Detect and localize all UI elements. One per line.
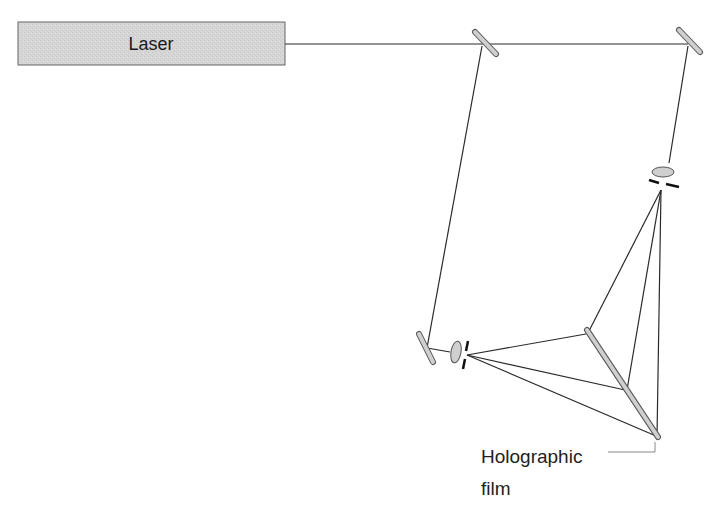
film-label-line2: film (481, 478, 511, 499)
ray (467, 334, 586, 355)
lens-left (449, 340, 463, 363)
lens-top (652, 167, 674, 177)
reference-beam-path (669, 46, 688, 163)
pinhole-top (649, 180, 679, 187)
film-label-line1: Holographic (481, 446, 582, 467)
laser: Laser (18, 22, 285, 65)
film-leader-line (608, 442, 655, 452)
ray (467, 355, 625, 390)
light-beams (285, 44, 688, 437)
ray (657, 190, 661, 437)
mirror-bottom-left (419, 334, 433, 362)
laser-label: Laser (128, 34, 173, 54)
ray (627, 190, 661, 390)
ray (589, 190, 661, 331)
holography-diagram: Laser (0, 0, 718, 506)
beam-splitter (475, 32, 496, 54)
object-beam-path (427, 46, 482, 348)
mirror-top-right (679, 30, 700, 52)
